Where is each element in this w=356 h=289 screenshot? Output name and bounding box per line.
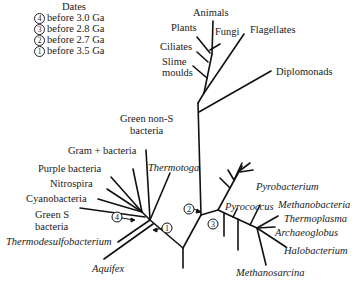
label-methanosarcina: Methanosarcina: [236, 268, 304, 279]
label-purple-bacteria: Purple bacteria: [38, 164, 101, 175]
label-slime-2: moulds: [162, 68, 193, 79]
label-pyrococcus: Pyrococcus: [225, 202, 274, 213]
label-flagellates: Flagellates: [250, 25, 296, 36]
label-diplomonads: Diplomonads: [276, 67, 333, 78]
label-animals: Animals: [193, 8, 229, 19]
label-cyanobacteria: Cyanobacteria: [26, 194, 87, 205]
legend-item: 4before 3.0 Ga: [34, 13, 104, 24]
label-halobacterium: Halobacterium: [284, 246, 348, 257]
marker-2-label: 2: [187, 205, 191, 214]
legend-item: 1before 3.5 Ga: [34, 46, 104, 57]
label-archaeoglobus: Archaeoglobus: [275, 228, 338, 239]
label-aquifex: Aquifex: [92, 264, 124, 275]
legend-title: Dates: [34, 2, 104, 13]
label-thermodesulfobacterium: Thermodesulfobacterium: [6, 237, 112, 248]
marker-4-label: 4: [115, 213, 119, 222]
label-thermotoga: Thermotoga: [148, 163, 199, 174]
label-nitrospira: Nitrospira: [50, 179, 93, 190]
label-green-s-2: bacteria: [35, 222, 68, 233]
dates-legend: Dates 4before 3.0 Ga 3before 2.8 Ga 2bef…: [34, 2, 104, 57]
label-green-s-1: Green S: [35, 210, 69, 221]
label-green-non-s-2: bacteria: [130, 126, 163, 137]
label-methanobacteria: Methanobacteria: [278, 200, 350, 211]
label-thermoplasma: Thermoplasma: [284, 214, 347, 225]
label-plants: Plants: [171, 23, 197, 34]
label-pyrobacterium: Pyrobacterium: [256, 182, 319, 193]
marker-3-label: 3: [211, 220, 215, 229]
label-ciliates: Ciliates: [160, 42, 192, 53]
label-slime-1: Slime: [162, 57, 187, 68]
legend-item: 2before 2.7 Ga: [34, 35, 104, 46]
label-green-non-s-1: Green non-S: [120, 114, 173, 125]
label-gram-plus: Gram + bacteria: [68, 146, 136, 157]
marker-1-label: 1: [165, 224, 169, 233]
label-fungi: Fungi: [215, 27, 240, 38]
legend-item: 3before 2.8 Ga: [34, 24, 104, 35]
